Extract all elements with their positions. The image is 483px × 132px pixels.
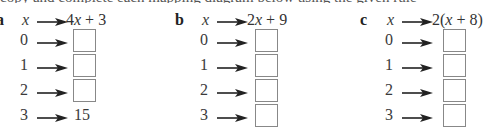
arrow-icon bbox=[215, 38, 249, 48]
arrow-icon bbox=[35, 17, 69, 27]
input-value: 1 bbox=[17, 56, 31, 74]
arrow-icon bbox=[35, 63, 69, 73]
input-variable: x bbox=[387, 11, 394, 29]
part-label: b bbox=[175, 11, 184, 29]
answer-box[interactable] bbox=[255, 29, 278, 52]
arrow-icon bbox=[35, 38, 69, 48]
answer-box[interactable] bbox=[73, 79, 96, 102]
mapping-rule: 2x + 9 bbox=[247, 11, 287, 29]
arrow-icon bbox=[35, 88, 69, 98]
arrow-icon bbox=[215, 63, 249, 73]
output-value: 15 bbox=[74, 106, 90, 124]
answer-box[interactable] bbox=[443, 29, 466, 52]
arrow-icon bbox=[35, 113, 69, 123]
answer-box[interactable] bbox=[443, 79, 466, 102]
input-value: 2 bbox=[17, 81, 31, 99]
answer-box[interactable] bbox=[255, 54, 278, 77]
part-label: a bbox=[0, 11, 4, 29]
input-value: 0 bbox=[17, 31, 31, 49]
input-value: 2 bbox=[197, 81, 211, 99]
answer-box[interactable] bbox=[443, 54, 466, 77]
mapping-part-b: bx2x + 90123 bbox=[160, 0, 320, 132]
arrow-icon bbox=[400, 38, 434, 48]
answer-box[interactable] bbox=[73, 54, 96, 77]
input-value: 0 bbox=[197, 31, 211, 49]
input-value: 3 bbox=[197, 106, 211, 124]
arrow-icon bbox=[400, 17, 434, 27]
input-value: 0 bbox=[382, 31, 396, 49]
answer-box[interactable] bbox=[443, 104, 466, 127]
arrow-icon bbox=[400, 113, 434, 123]
input-value: 3 bbox=[17, 106, 31, 124]
mapping-part-c: cx2(x + 8)0123 bbox=[320, 0, 480, 132]
answer-box[interactable] bbox=[255, 79, 278, 102]
arrow-icon bbox=[215, 113, 249, 123]
input-value: 3 bbox=[382, 106, 396, 124]
mapping-part-a: ax4x + 3012315 bbox=[0, 0, 160, 132]
answer-box[interactable] bbox=[255, 104, 278, 127]
arrow-icon bbox=[400, 88, 434, 98]
mapping-rule: 4x + 3 bbox=[66, 11, 106, 29]
input-value: 1 bbox=[382, 56, 396, 74]
arrow-icon bbox=[400, 63, 434, 73]
input-variable: x bbox=[202, 11, 209, 29]
input-value: 2 bbox=[382, 81, 396, 99]
answer-box[interactable] bbox=[73, 29, 96, 52]
input-variable: x bbox=[22, 11, 29, 29]
mapping-rule: 2(x + 8) bbox=[432, 11, 483, 29]
arrow-icon bbox=[215, 88, 249, 98]
input-value: 1 bbox=[197, 56, 211, 74]
part-label: c bbox=[360, 11, 367, 29]
arrow-icon bbox=[215, 17, 249, 27]
